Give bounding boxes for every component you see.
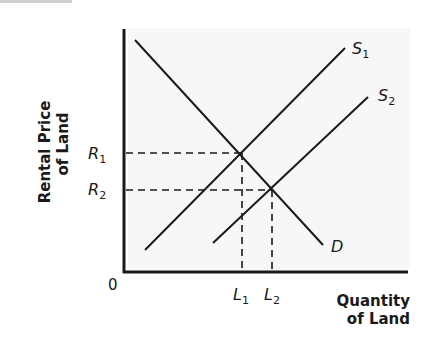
demand-label: D (331, 237, 343, 256)
y-axis-title: Rental Price of Land (36, 101, 72, 204)
r2-label: R2 (88, 180, 106, 202)
r1-label: R1 (88, 144, 106, 166)
svg-text:Quantity: Quantity (337, 292, 411, 310)
l1-label: L1 (233, 285, 249, 307)
svg-text:of Land: of Land (54, 112, 72, 175)
origin-label: 0 (108, 276, 118, 294)
l2-label: L2 (264, 285, 280, 307)
plot-background (128, 28, 410, 270)
supply-demand-diagram: Rental Price of Land Quantity of Land 0 … (0, 0, 430, 354)
svg-text:of Land: of Land (347, 310, 410, 328)
svg-text:Rental Price: Rental Price (36, 101, 54, 204)
x-axis-title: Quantity of Land (337, 292, 411, 328)
